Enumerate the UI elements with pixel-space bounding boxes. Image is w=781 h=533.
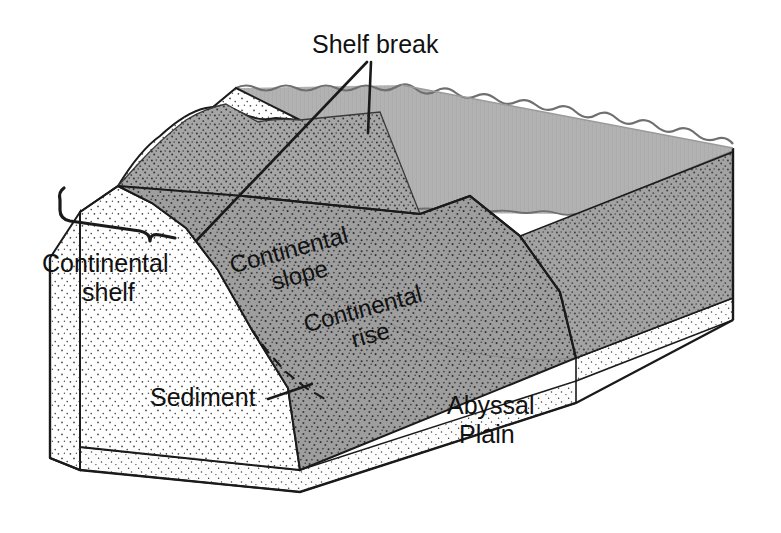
label-abyssal-plain-line2: Plain [459, 420, 515, 448]
label-continental-shelf-line2: shelf [82, 278, 135, 306]
continental-margin-block-diagram: Shelf break Continental shelf Continenta… [0, 0, 781, 533]
label-shelf-break: Shelf break [312, 30, 439, 58]
figure-root: Shelf break Continental shelf Continenta… [0, 0, 781, 533]
label-continental-shelf-line1: Continental [42, 249, 168, 277]
label-abyssal-plain-line1: Abyssal [447, 391, 535, 419]
label-sediment: Sediment [150, 383, 256, 411]
